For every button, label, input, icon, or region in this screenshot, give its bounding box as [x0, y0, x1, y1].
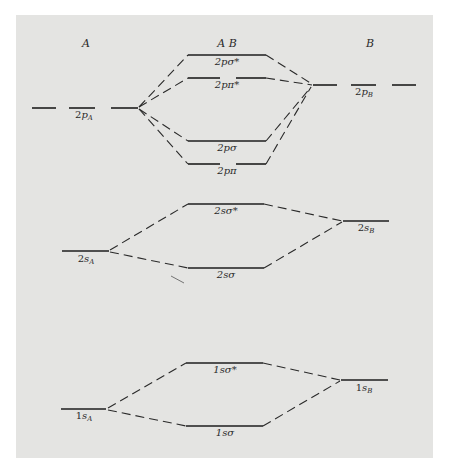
column-label-atom-b: B — [366, 37, 374, 50]
label-2sA: 2sA — [78, 253, 95, 266]
label-2pA: 2pA — [75, 109, 93, 122]
column-label-molecule-ab: A B — [217, 37, 237, 50]
stray-mark — [171, 276, 184, 283]
label-2ppi: 2pπ — [217, 165, 236, 176]
label-1sB: 1sB — [356, 382, 373, 395]
label-1ssigma-star: 1sσ* — [213, 364, 236, 375]
label-2ssigma: 2sσ — [217, 269, 235, 280]
label-2ppi-star: 2pπ* — [215, 79, 239, 90]
label-1sA: 1sA — [76, 410, 93, 423]
label-2pB: 2pB — [355, 86, 373, 99]
label-2psigma: 2pσ — [217, 142, 237, 153]
label-2psigma-star: 2pσ* — [215, 56, 240, 67]
mo-diagram — [0, 0, 449, 472]
column-label-atom-a: A — [82, 37, 90, 50]
label-2ssigma-star: 2sσ* — [214, 205, 237, 216]
label-2sB: 2sB — [358, 222, 375, 235]
label-1ssigma: 1sσ — [216, 427, 234, 438]
